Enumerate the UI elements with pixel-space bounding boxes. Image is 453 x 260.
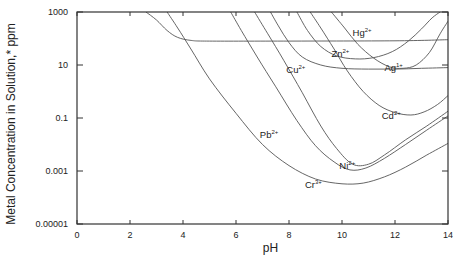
y-tick-label: 0.001: [45, 166, 68, 176]
x-tick-label: 10: [337, 230, 347, 240]
y-tick-label: 0.1: [55, 113, 68, 123]
label-hg: Hg2+: [353, 27, 372, 38]
x-axis: 02468101214: [74, 12, 453, 240]
label-cr: Cr3+: [305, 179, 322, 190]
y-axis-title: Metal Concentration in Solution,* ppm: [4, 23, 18, 224]
label-cd: Cd2+: [382, 110, 401, 121]
curve-cd: [310, 12, 448, 115]
label-zn: Zn2+: [331, 48, 349, 59]
curve-hg: [146, 12, 448, 41]
x-tick-label: 14: [443, 230, 453, 240]
x-tick-label: 0: [74, 230, 79, 240]
label-pb: Pb2+: [260, 129, 279, 140]
x-tick-label: 6: [233, 230, 238, 240]
x-tick-label: 2: [127, 230, 132, 240]
label-ni: Ni2+: [339, 160, 355, 171]
x-axis-title: pH: [263, 241, 278, 255]
label-cu: Cu2+: [286, 64, 305, 75]
curves-group: [146, 12, 448, 184]
x-tick-label: 4: [180, 230, 185, 240]
y-tick-label: 0.00001: [35, 219, 68, 229]
y-tick-label: 1000: [48, 7, 68, 17]
label-ag: Ag1+: [384, 62, 403, 73]
x-tick-label: 8: [286, 230, 291, 240]
curve-cr: [167, 12, 448, 184]
curve-pb: [231, 12, 448, 170]
metal-solubility-chart: 02468101214 1000100.10.0010.00001 Hg2+Cr…: [0, 0, 453, 260]
curve-zn: [297, 12, 440, 59]
x-tick-label: 12: [390, 230, 400, 240]
y-tick-label: 10: [58, 60, 68, 70]
series-labels: Hg2+Cr3+Pb2+Ni2+Cu2+Zn2+Cd2+Ag1+: [260, 27, 404, 190]
